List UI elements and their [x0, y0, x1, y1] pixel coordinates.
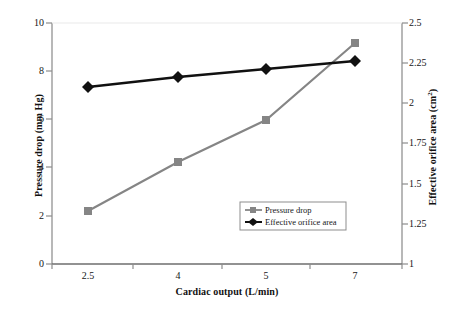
series-effective-orifice-area-line [88, 61, 355, 87]
data-point-marker [172, 71, 184, 83]
legend-label-pressure-drop: Pressure drop [265, 205, 312, 215]
data-point-marker [82, 81, 94, 93]
data-point-marker [262, 116, 270, 124]
square-marker-icon [250, 207, 256, 213]
data-point-marker [351, 39, 359, 47]
y-axis-right-ticks [402, 23, 408, 264]
chart-container: Pressure drop (mm Hg) Effective orifice … [0, 0, 461, 310]
series-pressure-drop-line [88, 43, 355, 211]
data-point-marker [349, 55, 361, 67]
data-point-marker [84, 207, 92, 215]
data-point-marker [174, 158, 182, 166]
plot-area [0, 0, 461, 310]
y-axis-left-ticks [46, 23, 52, 264]
legend-label-effective-orifice-area: Effective orifice area [265, 217, 337, 227]
data-point-marker [260, 63, 272, 75]
x-axis-ticks [52, 264, 402, 269]
